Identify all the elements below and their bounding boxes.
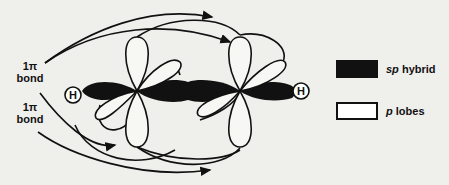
lower-arrow-curve-1 [38, 132, 210, 172]
legend-sp-hybrid: sp hybrid [336, 60, 436, 78]
legend-text-lobes: lobes [396, 105, 425, 117]
legend-text-hybrid: hybrid [402, 63, 436, 75]
pi-bond-label-lower-line1: 1π [16, 101, 44, 113]
lower-pi-arc-right [137, 147, 240, 159]
legend-symbol-p: p [386, 105, 393, 117]
legend-swatch-sp-hybrid [336, 60, 378, 78]
pi-bond-label-upper-line2: bond [16, 72, 44, 84]
pi-bond-label-lower: 1π bond [16, 101, 44, 125]
legend-swatch-p-lobes [336, 102, 378, 120]
hydrogen-label-left: H [67, 89, 79, 101]
legend-label-p-lobes: p lobes [386, 105, 425, 117]
legend-p-lobes: p lobes [336, 102, 425, 120]
pi-bond-label-lower-line2: bond [16, 113, 44, 125]
hydrogen-label-right: H [295, 85, 307, 97]
legend-label-sp-hybrid: sp hybrid [386, 63, 436, 75]
upper-pi-arc-left [137, 20, 240, 37]
legend-symbol-sp: sp [386, 63, 399, 75]
pi-bond-label-upper-line1: 1π [16, 60, 44, 72]
pi-bond-label-upper: 1π bond [16, 60, 44, 84]
